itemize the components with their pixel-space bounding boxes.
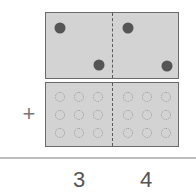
empty-counter-circle	[161, 128, 171, 138]
top-ten-frame	[45, 12, 179, 79]
empty-counter-circle	[93, 92, 103, 102]
counter-dot	[55, 23, 66, 34]
sum-digit-right: 4	[136, 168, 156, 192]
empty-counter-circle	[93, 128, 103, 138]
empty-counter-circle	[123, 92, 133, 102]
empty-counter-circle	[142, 128, 152, 138]
frame-divider	[112, 83, 113, 146]
empty-counter-circle	[123, 128, 133, 138]
counter-dot	[94, 60, 105, 71]
plus-sign: +	[21, 104, 37, 124]
empty-counter-circle	[55, 92, 65, 102]
empty-counter-circle	[161, 110, 171, 120]
empty-counter-circle	[142, 110, 152, 120]
empty-counter-circle	[123, 110, 133, 120]
empty-counter-circle	[93, 110, 103, 120]
sum-digit-left: 3	[69, 168, 89, 192]
empty-counter-circle	[74, 92, 84, 102]
empty-counter-circle	[74, 128, 84, 138]
empty-counter-circle	[161, 92, 171, 102]
sum-line	[0, 157, 196, 159]
counter-dot	[123, 23, 134, 34]
counter-dot	[162, 61, 173, 72]
empty-counter-circle	[142, 92, 152, 102]
empty-counter-circle	[74, 110, 84, 120]
empty-counter-circle	[55, 128, 65, 138]
frame-divider	[112, 13, 113, 78]
bottom-ten-frame	[45, 82, 179, 147]
empty-counter-circle	[55, 110, 65, 120]
